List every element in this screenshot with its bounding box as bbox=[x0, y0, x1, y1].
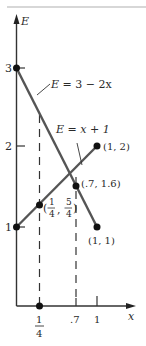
point-1-2 bbox=[94, 143, 101, 150]
label-point-1-1: (1, 1) bbox=[88, 235, 115, 246]
label-point-07-16: (.7, 1.6) bbox=[81, 178, 121, 189]
x-axis-arrow-icon bbox=[126, 303, 136, 309]
point-quarter-five-quarters bbox=[36, 202, 43, 209]
label-point-quarter: ( 1 4 , 5 4 ) bbox=[43, 197, 77, 219]
svg-text:(: ( bbox=[43, 202, 47, 215]
leader-line-1 bbox=[37, 84, 50, 95]
point-0-3 bbox=[13, 65, 20, 72]
svg-text:): ) bbox=[73, 202, 77, 215]
svg-text:5: 5 bbox=[66, 197, 72, 207]
leader-line-2 bbox=[77, 143, 82, 165]
tick-label-2: 2 bbox=[5, 140, 12, 153]
label-line-1: E = 3 − 2x bbox=[50, 78, 112, 91]
svg-text:,: , bbox=[57, 203, 61, 216]
tick-label-3: 3 bbox=[5, 62, 12, 75]
svg-text:1: 1 bbox=[49, 197, 55, 207]
point-x-quarter bbox=[36, 303, 43, 310]
e-axis-arrow-icon bbox=[14, 14, 20, 24]
svg-text:4: 4 bbox=[66, 209, 72, 219]
tick-label-1: 1 bbox=[5, 221, 12, 234]
e-axis-label: E bbox=[20, 15, 29, 28]
label-line-2: E = x + 1 bbox=[55, 123, 110, 136]
graph-figure: E x 3 2 1 1 4 .7 1 E = 3 − 2x E = x + 1 … bbox=[0, 0, 146, 346]
point-0-1 bbox=[13, 224, 20, 231]
tick-label-07: .7 bbox=[70, 314, 80, 325]
label-point-1-2: (1, 2) bbox=[103, 141, 130, 152]
tick-label-quarter-num: 1 bbox=[36, 314, 42, 325]
point-1-1 bbox=[94, 224, 101, 231]
tick-label-quarter-den: 4 bbox=[36, 328, 42, 339]
svg-text:4: 4 bbox=[49, 209, 55, 219]
point-07-16 bbox=[73, 183, 80, 190]
x-axis-label: x bbox=[128, 310, 135, 323]
tick-label-1x: 1 bbox=[94, 314, 100, 325]
